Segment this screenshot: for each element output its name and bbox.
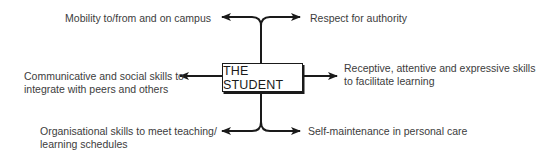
center-node-the-student: THE STUDENT — [222, 63, 303, 92]
branch-bottom-left-line2: learning schedules — [40, 138, 217, 151]
branch-top-right-label: Respect for authority — [310, 12, 407, 24]
branch-top-left-label: Mobility to/from and on campus — [65, 12, 211, 24]
branch-middle-left: Communicative and social skills to integ… — [24, 70, 184, 96]
branch-middle-right-line1: Receptive, attentive and expressive skil… — [344, 62, 535, 75]
branch-bottom-right-label: Self-maintenance in personal care — [308, 125, 467, 137]
branch-bottom-left: Organisational skills to meet teaching/ … — [40, 125, 217, 151]
branch-bottom-left-line1: Organisational skills to meet teaching/ — [40, 125, 217, 138]
branch-top-left: Mobility to/from and on campus — [65, 12, 211, 25]
branch-bottom-right: Self-maintenance in personal care — [308, 125, 467, 138]
branch-middle-left-line2: integrate with peers and others — [24, 83, 184, 96]
branch-middle-right-line2: to facilitate learning — [344, 75, 535, 88]
branch-top-right: Respect for authority — [310, 12, 407, 25]
branch-middle-right: Receptive, attentive and expressive skil… — [344, 62, 535, 88]
branch-middle-left-line1: Communicative and social skills to — [24, 70, 184, 83]
center-node-label: THE STUDENT — [223, 64, 302, 92]
